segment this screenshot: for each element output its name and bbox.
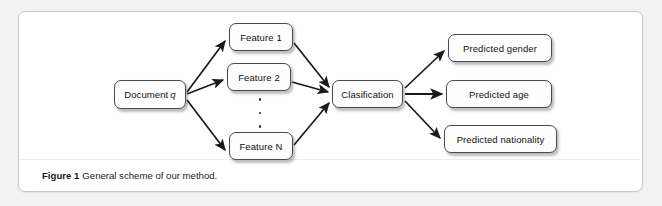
- figure-caption-text: General scheme of our method.: [82, 170, 217, 181]
- node-feature-n-label: Feature N: [239, 141, 282, 152]
- figure-panel: Document q Feature 1 Feature 2 Feature N…: [18, 11, 643, 192]
- edge-clasification-to-predicted-gender: [405, 51, 444, 88]
- vertical-ellipsis-icon: [255, 98, 265, 128]
- caption-divider: [20, 159, 641, 160]
- ellipsis-dot: [259, 125, 262, 128]
- node-predicted-age-label: Predicted age: [469, 89, 529, 100]
- figure-caption: Figure 1General scheme of our method.: [42, 170, 602, 181]
- node-document-q-variable: q: [168, 89, 175, 100]
- edge-feature-2-to-clasification: [292, 82, 328, 92]
- edge-clasification-to-predicted-nationality: [405, 101, 440, 138]
- node-clasification[interactable]: Clasification: [332, 80, 403, 108]
- edge-feature-n-to-clasification: [294, 103, 329, 145]
- ellipsis-dot: [259, 98, 262, 101]
- node-feature-1[interactable]: Feature 1: [229, 23, 293, 51]
- edge-document-q-to-feature-n: [187, 100, 225, 150]
- node-document-q-label: Document: [124, 89, 168, 100]
- node-predicted-nationality[interactable]: Predicted nationality: [444, 125, 557, 153]
- figure-caption-label: Figure 1: [42, 170, 82, 181]
- node-document-q[interactable]: Document q: [114, 80, 186, 109]
- node-feature-2-label: Feature 2: [238, 72, 280, 83]
- ellipsis-dot: [259, 112, 262, 115]
- edge-document-q-to-feature-2: [187, 80, 223, 94]
- node-clasification-label: Clasification: [341, 89, 394, 100]
- edge-feature-1-to-clasification: [294, 43, 329, 87]
- node-predicted-gender[interactable]: Predicted gender: [448, 34, 552, 62]
- edge-document-q-to-feature-1: [187, 41, 225, 92]
- node-feature-2[interactable]: Feature 2: [227, 63, 291, 91]
- node-feature-1-label: Feature 1: [240, 32, 282, 43]
- node-feature-n[interactable]: Feature N: [229, 132, 293, 160]
- node-predicted-age[interactable]: Predicted age: [446, 80, 552, 108]
- node-predicted-nationality-label: Predicted nationality: [457, 134, 545, 145]
- diagram-canvas: Document q Feature 1 Feature 2 Feature N…: [19, 12, 642, 164]
- node-predicted-gender-label: Predicted gender: [463, 43, 537, 54]
